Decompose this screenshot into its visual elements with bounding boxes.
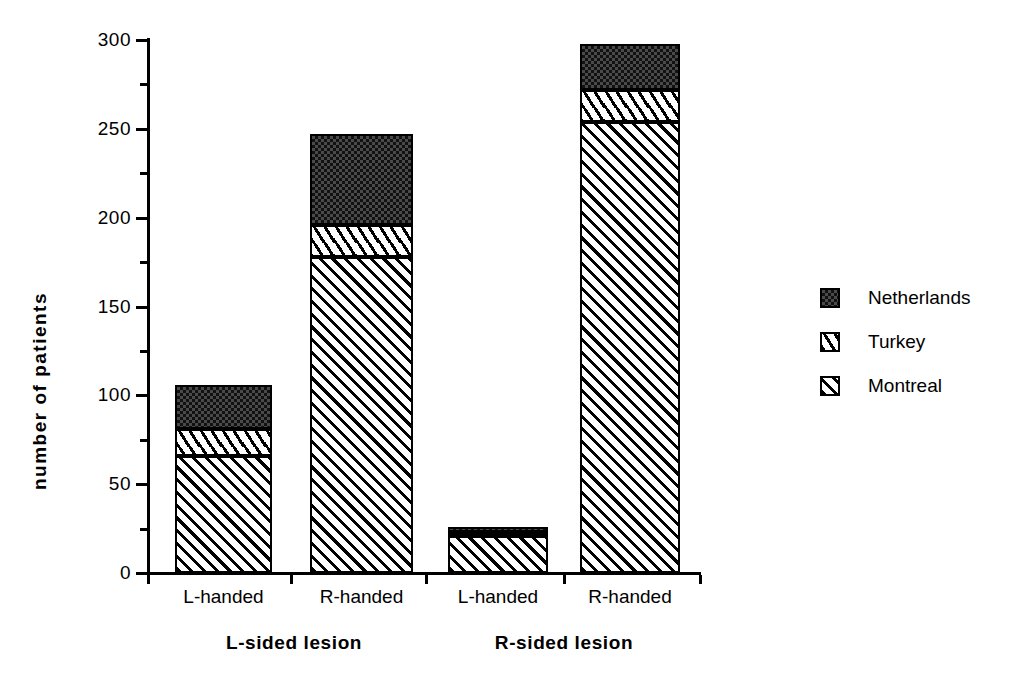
y-tick-label: 100 <box>91 385 131 404</box>
y-tick-label: 300 <box>91 30 131 49</box>
bar-segment-montreal <box>175 456 272 573</box>
y-tick-minor <box>140 528 147 531</box>
legend-label: Turkey <box>868 331 925 353</box>
x-tick <box>290 575 293 584</box>
y-tick-major <box>136 306 147 309</box>
bar-segment-netherlands <box>310 134 413 225</box>
bar-segment-turkey <box>448 532 548 536</box>
x-tick <box>425 575 428 584</box>
bar-segment-turkey <box>310 225 413 257</box>
y-tick-major <box>136 128 147 131</box>
bar-segment-montreal <box>310 257 413 573</box>
x-tick <box>147 575 150 584</box>
y-tick-major <box>136 39 147 42</box>
y-tick-label: 250 <box>91 119 131 138</box>
bar-segment-netherlands <box>580 44 680 90</box>
bar-stack <box>448 527 548 573</box>
x-axis-group-label: R-sided lesion <box>464 632 664 654</box>
y-tick-major <box>136 483 147 486</box>
y-tick-label: 200 <box>91 208 131 227</box>
y-tick-major <box>136 217 147 220</box>
bar-segment-montreal <box>580 122 680 573</box>
y-axis-line <box>147 38 150 575</box>
y-tick-minor <box>140 83 147 86</box>
y-tick-label: 0 <box>91 563 131 582</box>
bar-stack <box>310 134 413 573</box>
bar-segment-turkey <box>175 429 272 456</box>
x-tick <box>563 575 566 584</box>
y-tick-major <box>136 572 147 575</box>
x-axis-label: R-handed <box>560 586 700 608</box>
bar-stack <box>175 385 272 573</box>
x-axis-label: L-handed <box>428 586 568 608</box>
bar-segment-netherlands <box>448 527 548 532</box>
y-tick-major <box>136 394 147 397</box>
bar-segment-montreal <box>448 536 548 573</box>
legend-swatch-netherlands <box>820 288 840 308</box>
legend-swatch-turkey <box>820 332 840 352</box>
y-tick-minor <box>140 350 147 353</box>
y-tick-minor <box>140 261 147 264</box>
bar-segment-turkey <box>580 90 680 122</box>
y-tick-label: 150 <box>91 297 131 316</box>
bar-chart: number of patients 300250200150100500 L-… <box>0 0 1013 686</box>
legend-swatch-montreal <box>820 376 840 396</box>
x-axis-group-label: L-sided lesion <box>194 632 394 654</box>
y-tick-minor <box>140 172 147 175</box>
x-axis-label: L-handed <box>154 586 294 608</box>
x-tick <box>699 575 702 584</box>
x-axis-label: R-handed <box>292 586 432 608</box>
bar-stack <box>580 44 680 573</box>
bar-segment-netherlands <box>175 385 272 429</box>
legend-label: Netherlands <box>868 287 970 309</box>
y-tick-minor <box>140 439 147 442</box>
legend-label: Montreal <box>868 375 942 397</box>
y-tick-label: 50 <box>91 474 131 493</box>
y-axis-title: number of patients <box>29 291 51 491</box>
